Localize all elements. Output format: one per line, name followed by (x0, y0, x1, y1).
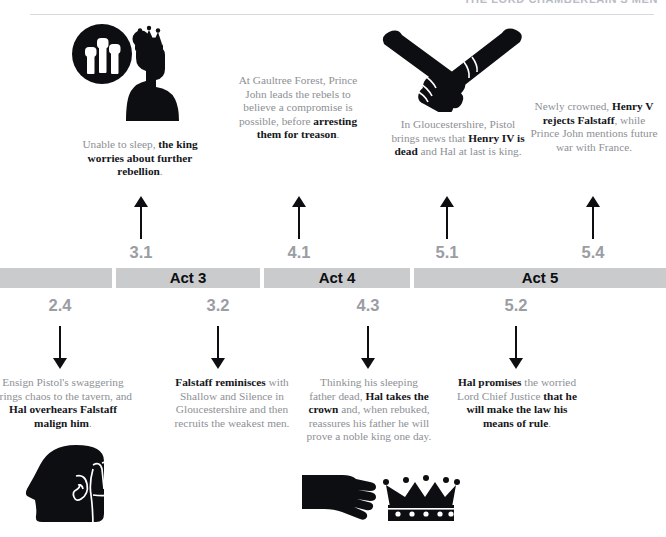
arrow-down-5-2 (509, 326, 523, 368)
text-run: Newly crowned, (534, 100, 611, 112)
scene-number-below-4-3: 4.3 (338, 296, 398, 315)
text-run: and Hal at last is king. (418, 145, 522, 157)
scene-number-below-3-2: 3.2 (188, 296, 248, 315)
below-text-block-3: Thinking his sleeping father dead, Hal t… (306, 376, 432, 444)
above-text-block-4: Newly crowned, Henry V rejects Falstaff,… (528, 100, 660, 154)
handshake-icon (378, 26, 526, 112)
scene-number-below-2-4: 2.4 (30, 296, 90, 315)
arrow-down-2-4 (53, 326, 67, 368)
text-run: Unable to sleep, (82, 138, 158, 150)
arrow-down-3-2 (211, 326, 225, 368)
text-run-bold: Hal overhears Falstaff malign him (9, 403, 117, 429)
timeline-infographic: THE LORD CHAMBERLAIN'S MEN (0, 0, 666, 537)
arrow-up-4-1 (292, 197, 306, 239)
text-run: . (89, 417, 92, 429)
text-run: . (548, 417, 551, 429)
text-run-bold: Hal promises (458, 376, 522, 388)
arrow-up-3-1 (134, 197, 148, 239)
text-run: Ensign Pistol's swaggering brings chaos … (0, 376, 132, 402)
hand-reaching-crown-icon (302, 473, 462, 523)
scene-number-above-4-1: 4.1 (269, 243, 329, 262)
king-thought-bubble-fists-icon (62, 22, 182, 130)
above-text-block-1: Unable to sleep, the king worries about … (76, 138, 204, 179)
above-text-block-2: At Gaultree Forest, Prince John leads th… (234, 74, 362, 142)
scene-number-below-5-2: 5.2 (486, 296, 546, 315)
eavesdropping-head-icon (24, 443, 124, 537)
timeline-segment-act-3[interactable]: Act 3 (116, 268, 260, 288)
timeline-segment-act-4[interactable]: Act 4 (264, 268, 410, 288)
below-text-block-4: Hal promises the worried Lord Chief Just… (452, 376, 582, 430)
page-title: THE LORD CHAMBERLAIN'S MEN (464, 0, 658, 5)
arrow-up-5-1 (440, 197, 454, 239)
arrow-down-4-3 (361, 326, 375, 368)
scene-number-above-3-1: 3.1 (111, 243, 171, 262)
timeline-bar: Act 3 Act 4 Act 5 (0, 268, 666, 288)
header-divider (30, 14, 654, 15)
text-run-bold: Falstaff reminisces (175, 376, 265, 388)
timeline-segment-act-5[interactable]: Act 5 (414, 268, 666, 288)
above-text-block-3: In Gloucestershire, Pistol brings news t… (391, 118, 525, 159)
timeline-segment-0[interactable] (0, 268, 112, 288)
below-text-block-2: Falstaff reminisces with Shallow and Sil… (173, 376, 291, 430)
text-run: . (337, 128, 340, 140)
scene-number-above-5-1: 5.1 (417, 243, 477, 262)
text-run: . (160, 165, 163, 177)
below-text-block-1: Ensign Pistol's swaggering brings chaos … (0, 376, 133, 430)
arrow-up-5-4 (586, 197, 600, 239)
scene-number-above-5-4: 5.4 (563, 243, 623, 262)
